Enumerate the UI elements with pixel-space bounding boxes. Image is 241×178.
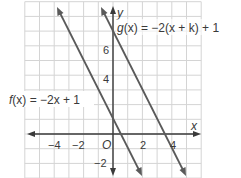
y-tick-label: 4 bbox=[103, 73, 109, 85]
origin-label: O bbox=[102, 138, 111, 152]
x-tick-label: 4 bbox=[170, 139, 176, 151]
y-axis-label: y bbox=[116, 6, 124, 20]
y-axis-down-arrow-icon bbox=[110, 168, 116, 176]
x-axis-left-arrow-icon bbox=[27, 131, 35, 137]
g-function-label: g(x) = −2(x + k) + 1 bbox=[117, 21, 219, 35]
x-tick-label: −2 bbox=[72, 139, 85, 151]
coordinate-graph: y x O −4 −2 2 4 6 4 −2 f(x) = −2x + 1 g(… bbox=[0, 0, 241, 178]
y-tick-label: −2 bbox=[94, 157, 107, 169]
f-function-label: f(x) = −2x + 1 bbox=[9, 93, 80, 107]
x-axis-label: x bbox=[190, 119, 198, 133]
x-tick-label: 2 bbox=[140, 139, 146, 151]
y-axis-up-arrow-icon bbox=[110, 6, 116, 14]
x-axis bbox=[27, 131, 201, 137]
x-tick-label: −4 bbox=[48, 139, 61, 151]
y-tick-label: 6 bbox=[103, 44, 109, 56]
